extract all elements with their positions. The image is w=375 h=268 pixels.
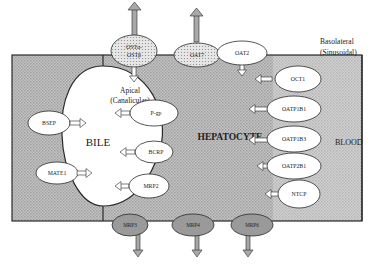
svg-text:NTCP: NTCP	[292, 191, 307, 197]
arrow-down-icon	[195, 234, 199, 252]
svg-text:BCRP: BCRP	[149, 149, 164, 155]
arrow-down-icon	[136, 234, 140, 252]
transporter-oat7: OAT7	[174, 8, 220, 67]
basolateral-label-line1: Basolateral	[320, 37, 354, 46]
arrow-left-icon	[120, 111, 130, 115]
arrow-up-icon	[132, 6, 137, 36]
transporter-mrp3: MRP3	[112, 214, 148, 257]
transporter-mrp6: MRP6	[231, 214, 273, 257]
arrow-left-icon	[254, 138, 268, 142]
svg-text:MRP3: MRP3	[123, 222, 137, 228]
svg-text:BSEP: BSEP	[42, 120, 56, 126]
svg-text:P-gp: P-gp	[151, 110, 162, 116]
svg-text:OSTβ: OSTβ	[127, 52, 141, 58]
svg-text:OAT2: OAT2	[235, 50, 249, 56]
svg-text:OCT1: OCT1	[291, 76, 306, 82]
arrow-up-icon	[194, 12, 199, 42]
svg-text:MRP2: MRP2	[143, 183, 158, 189]
arrow-left-icon	[120, 184, 129, 188]
arrow-right-icon	[77, 171, 87, 175]
apical-label-line1: Apical	[120, 86, 140, 95]
blood-label: BLOOD	[335, 138, 363, 147]
svg-text:OAT7: OAT7	[190, 52, 204, 58]
arrow-right-icon	[70, 121, 81, 125]
transporter-mrp4: MRP4	[172, 214, 214, 257]
arrow-up-head-icon	[128, 2, 141, 10]
arrow-down-icon	[246, 234, 250, 252]
svg-text:OATP1B3: OATP1B3	[282, 136, 306, 142]
svg-text:OATP1B1: OATP1B1	[282, 106, 306, 112]
basolateral-label-line2: (Sinusoidal)	[320, 48, 357, 57]
arrow-left-icon	[254, 107, 268, 111]
svg-text:OATP2B1: OATP2B1	[282, 163, 306, 169]
svg-text:MRP4: MRP4	[186, 222, 200, 228]
svg-text:OSTα-: OSTα-	[126, 44, 142, 50]
transporter-diagram: Apical (Canalicular) BILE HEPATOCYTE Bas…	[0, 0, 375, 268]
arrow-left-icon	[260, 77, 272, 81]
svg-text:MATE1: MATE1	[48, 170, 67, 176]
svg-text:MRP6: MRP6	[245, 222, 259, 228]
arrow-left-icon	[125, 150, 135, 154]
bile-label: BILE	[86, 136, 111, 148]
